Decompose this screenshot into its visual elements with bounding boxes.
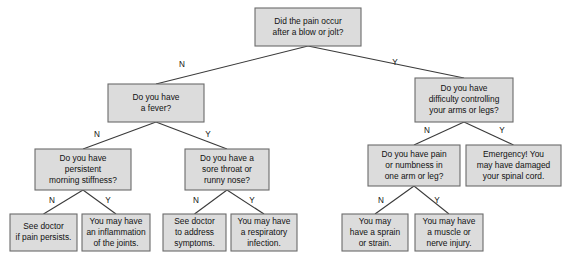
tree-node-emergency[interactable]: Emergency! Youmay have damagedyour spina…: [466, 145, 561, 186]
node-text-line: runny nose?: [204, 175, 250, 185]
node-text-line: a respiratory: [241, 227, 288, 237]
node-text-line: Do you have pain: [381, 149, 447, 159]
node-text-line: Emergency! You: [483, 149, 544, 159]
node-text-line: one arm or leg?: [385, 171, 444, 181]
node-text-line: symptoms.: [174, 238, 215, 248]
tree-node-seedoctor-symptoms[interactable]: See doctorto addresssymptoms.: [163, 214, 226, 251]
edge-label-numb-yes: Y: [434, 196, 440, 205]
tree-node-respiratory[interactable]: You may havea respiratoryinfection.: [231, 214, 297, 251]
node-text-line: You may have: [238, 216, 291, 226]
node-text-line: or strain.: [359, 238, 392, 248]
edge-label-diff-yes: Y: [499, 126, 505, 135]
node-text-line: See doctor: [174, 216, 215, 226]
node-text-line: Do you have a: [200, 153, 254, 163]
node-text-line: Do you have: [59, 153, 106, 163]
node-text-line: may have damaged: [477, 160, 551, 170]
edge-label-numb-no: N: [378, 196, 384, 205]
tree-node-seedoctor-persists[interactable]: See doctorif pain persists.: [10, 214, 77, 251]
edge-label-sore-yes: Y: [249, 196, 255, 205]
tree-edge: [83, 190, 116, 214]
node-text-line: a muscle or: [427, 227, 470, 237]
node-text-line: infection.: [247, 238, 281, 248]
tree-edge: [414, 186, 449, 214]
node-text-line: after a blow or jolt?: [273, 27, 344, 37]
tree-node-stiffness[interactable]: Do you havepersistentmorning stiffness?: [35, 149, 131, 190]
edge-label-diff-no: N: [424, 126, 430, 135]
edge-label-sore-no: N: [193, 196, 199, 205]
node-text-line: to address: [175, 227, 214, 237]
node-text-line: an inflammation: [86, 227, 145, 237]
tree-edge: [156, 122, 227, 149]
edge-label-root-yes: Y: [392, 58, 398, 67]
nodes-layer: Did the pain occurafter a blow or jolt?D…: [10, 8, 561, 251]
node-text-line: Did the pain occur: [274, 16, 342, 26]
node-text-line: your arms or legs?: [429, 105, 499, 115]
node-text-line: You may: [359, 216, 392, 226]
tree-node-muscle-nerve[interactable]: You may havea muscle ornerve injury.: [415, 214, 483, 251]
node-text-line: See doctor: [23, 221, 64, 231]
tree-node-sorethroat[interactable]: Do you have asore throat orrunny nose?: [185, 149, 269, 190]
tree-node-fever[interactable]: Do you havea fever?: [108, 84, 204, 122]
node-text-line: You may have: [423, 216, 476, 226]
edge-label-fever-no: N: [94, 130, 100, 139]
node-text-line: You may have: [90, 216, 143, 226]
node-text-line: or numbness in: [385, 160, 443, 170]
edge-label-stiff-no: N: [49, 196, 55, 205]
node-text-line: Do you have: [132, 92, 179, 102]
tree-canvas: Did the pain occurafter a blow or jolt?D…: [0, 0, 573, 272]
node-text-line: difficulty controlling: [429, 94, 500, 104]
node-text-line: Do you have: [440, 83, 487, 93]
node-text-line: sore throat or: [202, 164, 252, 174]
tree-edge: [227, 190, 264, 214]
tree-node-difficulty[interactable]: Do you havedifficulty controllingyour ar…: [415, 78, 513, 122]
node-text-line: of the joints.: [93, 238, 138, 248]
tree-node-inflammation[interactable]: You may havean inflammationof the joints…: [82, 214, 150, 251]
tree-node-root[interactable]: Did the pain occurafter a blow or jolt?: [255, 8, 361, 46]
node-text-line: persistent: [65, 164, 102, 174]
tree-edge: [464, 122, 514, 145]
node-text-line: a fever?: [141, 103, 172, 113]
node-text-line: nerve injury.: [427, 238, 472, 248]
node-text-line: if pain persists.: [16, 232, 72, 242]
edge-label-root-no: N: [179, 60, 185, 69]
tree-edge: [414, 122, 464, 145]
tree-node-sprain[interactable]: You mayhave a sprainor strain.: [342, 214, 408, 251]
edge-label-stiff-yes: Y: [105, 196, 111, 205]
tree-edge: [308, 46, 464, 78]
tree-node-numbness[interactable]: Do you have painor numbness inone arm or…: [368, 145, 460, 186]
edge-label-fever-yes: Y: [205, 130, 211, 139]
tree-edge: [195, 190, 228, 214]
node-text-line: your spinal cord.: [483, 171, 544, 181]
node-text-line: have a sprain: [350, 227, 401, 237]
node-text-line: morning stiffness?: [49, 175, 117, 185]
decision-tree-diagram: Did the pain occurafter a blow or jolt?D…: [0, 0, 573, 272]
